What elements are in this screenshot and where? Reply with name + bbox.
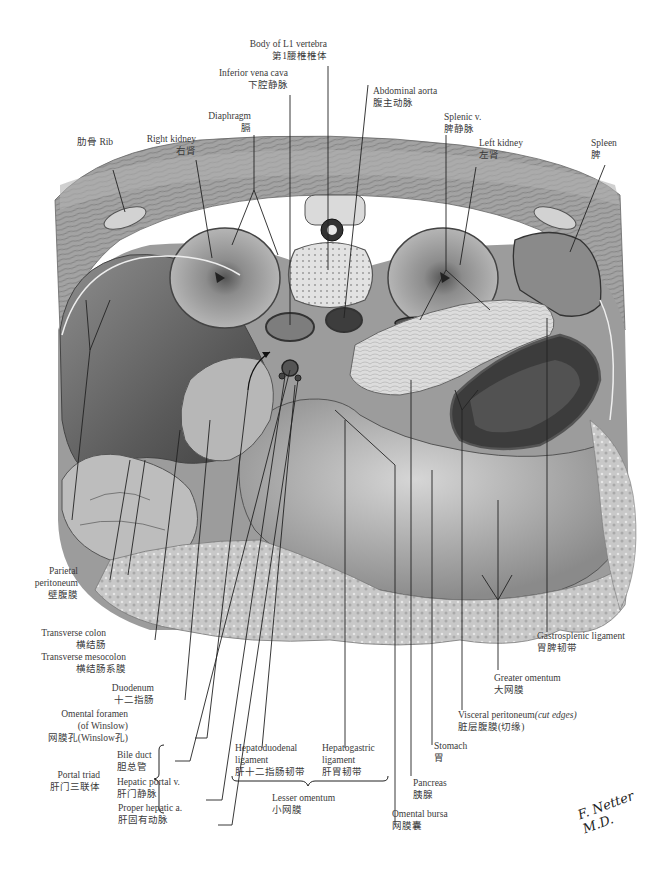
label-omental-bursa: Omental bursa 网膜囊 xyxy=(392,808,448,832)
label-body-of-l1-vertebra: Body of L1 vertebra 第1腰椎椎体 xyxy=(232,38,327,62)
label-transverse-colon: Transverse colon 横结肠 xyxy=(20,627,106,651)
label-bile-duct: Bile duct 胆总管 xyxy=(117,749,152,773)
label-omental-foramen: Omental foramen (of Winslow) 网膜孔(Winslow… xyxy=(10,708,128,744)
label-gastrosplenic-ligament: Gastrosplenic ligament 胃脾韧带 xyxy=(537,630,625,654)
label-hepatogastric-ligament: Hepatogastric ligament 肝胃韧带 xyxy=(322,742,375,778)
label-right-kidney: Right kidney 右肾 xyxy=(130,133,196,157)
label-transverse-mesocolon: Transverse mesocolon 横结肠系膜 xyxy=(20,651,126,675)
label-visceral-peritoneum: Visceral peritoneum(cut edges) 脏层腹膜(切缘) xyxy=(458,709,577,733)
label-pancreas: Pancreas 胰腺 xyxy=(413,777,447,801)
inferior-vena-cava xyxy=(266,313,314,341)
label-rib: 肋骨 Rib xyxy=(77,136,113,148)
label-parietal-peritoneum: Parietal peritoneum 壁腹膜 xyxy=(20,565,78,601)
label-lesser-omentum: Lesser omentum 小网膜 xyxy=(272,792,335,816)
label-spleen: Spleen 脾 xyxy=(591,137,617,161)
label-portal-triad: Portal triad 肝门三联体 xyxy=(30,769,100,793)
label-greater-omentum: Greater omentum 大网膜 xyxy=(494,672,561,696)
label-duodenum: Duodenum 十二指肠 xyxy=(60,682,154,706)
label-inferior-vena-cava: Inferior vena cava 下腔静脉 xyxy=(200,67,288,91)
label-abdominal-aorta: Abdominal aorta 腹主动脉 xyxy=(373,85,437,109)
label-left-kidney: Left kidney 左肾 xyxy=(479,137,523,161)
label-splenic-vein: Splenic v. 脾静脉 xyxy=(444,111,481,135)
label-hepatic-portal-vein: Hepatic portal v. 肝门静脉 xyxy=(117,776,180,800)
label-diaphragm: Diaphragm 膈 xyxy=(195,110,251,134)
label-proper-hepatic-artery: Proper hepatic a. 肝固有动脉 xyxy=(118,802,182,826)
label-stomach: Stomach 胃 xyxy=(434,740,467,764)
vertebral-body xyxy=(289,243,373,308)
abdominal-aorta xyxy=(326,308,362,332)
label-hepatoduodenal-ligament: Hepatoduodenal ligament 肝十二指肠韧带 xyxy=(235,742,305,778)
